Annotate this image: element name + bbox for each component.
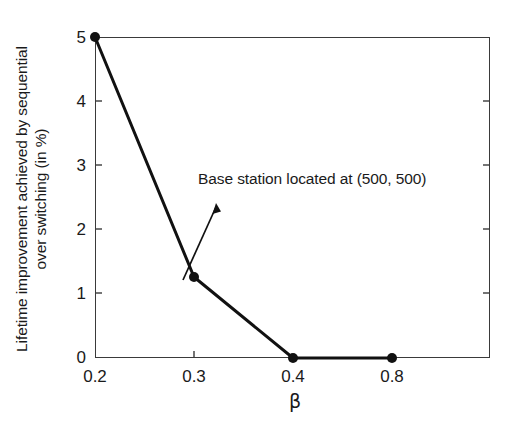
data-point-marker bbox=[288, 353, 298, 363]
data-series-line bbox=[95, 37, 392, 358]
y-tick-label-5: 5 bbox=[52, 29, 86, 46]
annotation-arrow bbox=[183, 203, 221, 280]
x-axis-title: β bbox=[260, 390, 330, 412]
data-point-marker bbox=[387, 353, 397, 363]
plot-area bbox=[95, 37, 490, 358]
y-axis-title-line-1: Lifetime improvement achieved by sequent… bbox=[13, 46, 32, 352]
y-tick-marks-right bbox=[483, 101, 490, 293]
y-tick-label-1: 1 bbox=[52, 285, 86, 302]
y-axis-title-line-2: over switching (in %) bbox=[32, 129, 51, 270]
y-tick-label-4: 4 bbox=[52, 93, 86, 110]
x-tick-label-2: 0.4 bbox=[258, 368, 328, 385]
x-tick-label-1: 0.3 bbox=[159, 368, 229, 385]
data-point-marker bbox=[189, 272, 199, 282]
y-tick-label-3: 3 bbox=[52, 157, 86, 174]
x-tick-label-3: 0.8 bbox=[357, 368, 427, 385]
y-tick-marks bbox=[95, 101, 102, 293]
y-tick-label-2: 2 bbox=[52, 221, 86, 238]
y-tick-label-0: 0 bbox=[52, 349, 86, 366]
annotation-label: Base station located at (500, 500) bbox=[198, 170, 426, 188]
data-point-marker bbox=[90, 32, 100, 42]
y-axis-title: Lifetime improvement achieved by sequent… bbox=[10, 21, 54, 377]
x-tick-label-0: 0.2 bbox=[60, 368, 130, 385]
chart-figure: Lifetime improvement achieved by sequent… bbox=[0, 0, 515, 427]
